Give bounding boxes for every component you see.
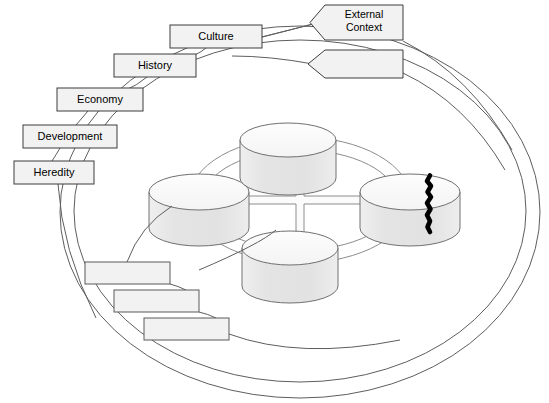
label-blank-2[interactable] [114, 290, 199, 312]
label-external-context-empty[interactable] [308, 50, 403, 78]
label-history[interactable]: History [114, 54, 196, 77]
cylinder-bottom [242, 231, 338, 303]
label-heredity-text: Heredity [34, 166, 75, 178]
cylinder-left [149, 174, 249, 246]
label-history-text: History [138, 59, 173, 71]
label-external-context-line1: External [345, 8, 384, 20]
diagram-canvas: Culture History Economy Development Here… [0, 0, 549, 403]
leader-blank2-blank3 [199, 312, 216, 318]
cylinder-top-top [240, 123, 336, 157]
label-external-context[interactable]: External Context [310, 5, 403, 40]
cylinder-right [360, 174, 460, 246]
leader-blank3-boundary [229, 334, 400, 349]
leader-development-heredity [52, 148, 60, 161]
label-blank-2-box[interactable] [114, 290, 199, 312]
leader-economy-development [76, 111, 88, 125]
label-culture-text: Culture [198, 30, 233, 42]
label-economy[interactable]: Economy [57, 88, 143, 111]
label-external-context-line2: Context [346, 21, 382, 33]
label-development-text: Development [38, 130, 103, 142]
label-development[interactable]: Development [23, 125, 117, 148]
leader-heredity-boundary [58, 184, 96, 318]
cylinder-right-top [360, 174, 460, 210]
label-external-context-empty-box[interactable] [308, 50, 403, 78]
label-blank-3[interactable] [144, 318, 229, 340]
diagram-svg: Culture History Economy Development Here… [0, 0, 549, 403]
label-heredity[interactable]: Heredity [14, 161, 94, 184]
leader-external-boundary-c [403, 73, 505, 170]
label-blank-1[interactable] [85, 262, 170, 284]
cylinder-bottom-top [242, 231, 338, 265]
leader-external-boundary-b [403, 41, 512, 150]
cylinder-top [240, 123, 336, 195]
leader-blank1-blank2 [170, 284, 186, 290]
label-economy-text: Economy [77, 93, 123, 105]
label-blank-3-box[interactable] [144, 318, 229, 340]
cylinder-left-top [149, 174, 249, 210]
leader-external-boundary-a [232, 56, 313, 64]
label-blank-1-box[interactable] [85, 262, 170, 284]
label-culture[interactable]: Culture [170, 25, 262, 48]
